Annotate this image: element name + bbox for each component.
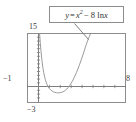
equation-ln-function: ln bbox=[96, 10, 104, 20]
plot-frame bbox=[28, 34, 126, 103]
figure-container: y=x2−8lnx 15 −1 8 −3 bbox=[0, 0, 136, 122]
x-min-label: −1 bbox=[3, 75, 12, 83]
equation-callout-box: y=x2−8lnx bbox=[49, 6, 124, 23]
y-max-label: 15 bbox=[29, 23, 37, 31]
equation-argument: x bbox=[104, 10, 108, 20]
equation-equals: = bbox=[69, 10, 76, 20]
y-min-label: −3 bbox=[27, 106, 36, 114]
equation-minus-sign: − bbox=[83, 10, 90, 20]
x-max-label: 8 bbox=[126, 75, 130, 83]
equation-label: y=x2−8lnx bbox=[65, 9, 108, 19]
